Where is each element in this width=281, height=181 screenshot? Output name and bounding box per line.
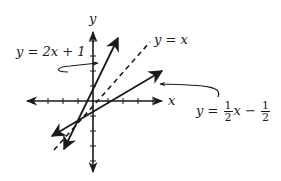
eq2-rhs: x (181, 32, 188, 47)
eq3-minus: − (241, 103, 260, 118)
equation-label-2x-plus-1: y = 2x + 1 (16, 45, 86, 58)
eq3-equals: = (203, 103, 222, 118)
eq1-rhs: 2x + 1 (43, 44, 86, 59)
y-axis-label: y (89, 12, 96, 25)
equation-label-half-x-minus-half: y = 12x − 12 (196, 100, 271, 123)
coordinate-plane (0, 0, 281, 181)
eq3-fraction-1: 12 (224, 100, 233, 123)
eq3-fraction-2: 12 (261, 100, 270, 123)
x-axis-label: x (168, 94, 175, 107)
equation-label-y-equals-x: y = x (154, 33, 188, 46)
line-y-equals-half-x-minus-half (52, 71, 162, 136)
eq3-var: x (234, 103, 241, 118)
eq1-equals: = (23, 44, 42, 59)
eq2-equals: = (161, 32, 180, 47)
